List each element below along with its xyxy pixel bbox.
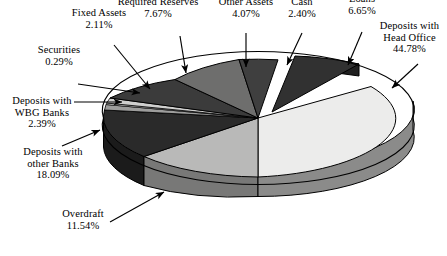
label-fixed-assets-value: 2.11% (56, 19, 142, 31)
leader-required-reserves (180, 36, 186, 73)
label-deposits-head-office-name-line2: Head Office (372, 32, 447, 44)
label-deposits-head-office-value: 44.78% (372, 43, 447, 55)
label-required-reserves-name: Required Reserves (113, 0, 203, 8)
label-cash: Cash 2.40% (276, 0, 328, 19)
label-loans-value: 6.65% (334, 5, 390, 17)
label-overdraft-name: Overdraft (48, 208, 118, 220)
label-other-assets-name: Other Assets (206, 0, 286, 8)
label-overdraft-value: 11.54% (48, 220, 118, 232)
label-deposits-wbg-banks: Deposits with WBG Banks 2.39% (3, 95, 81, 130)
label-deposits-head-office: Deposits with Head Office 44.78% (372, 20, 447, 55)
label-securities-value: 0.29% (23, 56, 95, 68)
leader-securities (78, 84, 140, 93)
label-deposits-head-office-name-line1: Deposits with (372, 20, 447, 32)
label-deposits-other-banks-name-line2: other Banks (10, 158, 96, 170)
leader-loans (348, 32, 362, 65)
label-required-reserves: Required Reserves 7.67% (113, 0, 203, 19)
label-loans: Loans 6.65% (334, 0, 390, 16)
label-deposits-wbg-banks-name-line1: Deposits with (3, 95, 81, 107)
label-overdraft: Overdraft 11.54% (48, 208, 118, 231)
label-securities-name: Securities (23, 44, 95, 56)
label-cash-name: Cash (276, 0, 328, 8)
leader-fixed-assets (114, 45, 150, 89)
leader-deposits-other-banks (62, 130, 100, 146)
label-other-assets: Other Assets 4.07% (206, 0, 286, 19)
label-cash-value: 2.40% (276, 8, 328, 20)
label-required-reserves-value: 7.67% (113, 8, 203, 20)
label-securities: Securities 0.29% (23, 44, 95, 67)
label-other-assets-value: 4.07% (206, 8, 286, 20)
label-deposits-wbg-banks-value: 2.39% (3, 118, 81, 130)
pie-chart-figure: Fixed Assets 2.11% Required Reserves 7.6… (0, 0, 447, 256)
label-deposits-other-banks: Deposits with other Banks 18.09% (10, 146, 96, 181)
label-deposits-other-banks-value: 18.09% (10, 169, 96, 181)
label-deposits-wbg-banks-name-line2: WBG Banks (3, 107, 81, 119)
leader-deposits-head-office (392, 64, 418, 88)
label-deposits-other-banks-name-line1: Deposits with (10, 146, 96, 158)
leader-overdraft (110, 192, 164, 222)
